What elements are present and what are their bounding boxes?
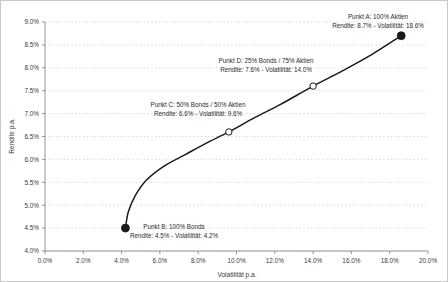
- x-tick-label: 8.0%: [191, 257, 206, 264]
- y-tick-label: 5.5%: [24, 179, 39, 186]
- annotation-label-b-line2: Rendite: 4.5% - Volatilität: 4.2%: [130, 232, 219, 239]
- y-tick-label: 6.5%: [24, 133, 39, 140]
- y-tick-label: 7.5%: [24, 87, 39, 94]
- y-tick-label: 9.0%: [24, 18, 39, 25]
- x-tick-label: 12.0%: [266, 257, 284, 264]
- efficient-frontier-chart: 0.0%2.0%4.0%6.0%8.0%10.0%12.0%14.0%16.0%…: [0, 0, 448, 282]
- x-tick-label: 0.0%: [38, 257, 53, 264]
- y-tick-label: 6.0%: [24, 156, 39, 163]
- x-tick-label: 4.0%: [114, 257, 129, 264]
- annotation-label-d-line2: Rendite: 7.6% - Volatilität: 14.0%: [220, 66, 312, 73]
- x-tick-label: 16.0%: [342, 257, 360, 264]
- annotation-label-a-line1: Punkt A: 100% Aktien: [348, 13, 409, 20]
- annotation-label-a-line2: Rendite: 8.7% - Volatilität: 18.6%: [332, 22, 424, 29]
- x-tick-label: 18.0%: [381, 257, 399, 264]
- x-axis-title: Volatilität p.a.: [217, 271, 256, 279]
- y-tick-label: 5.0%: [24, 202, 39, 209]
- data-point-d: [310, 83, 316, 89]
- annotation-label-c-line1: Punkt C: 50% Bonds / 50% Aktien: [151, 101, 246, 108]
- x-tick-label: 6.0%: [153, 257, 168, 264]
- y-axis-tick-labels: 4.0%4.5%5.0%5.5%6.0%6.5%7.0%7.5%8.0%8.5%…: [24, 18, 39, 254]
- annotation-label-c-line2: Rendite: 6.6% - Volatilität: 9.6%: [154, 110, 243, 117]
- x-tick-label: 20.0%: [419, 257, 437, 264]
- y-axis-title: Rendite p.a.: [8, 118, 16, 154]
- x-tick-label: 14.0%: [304, 257, 322, 264]
- annotation-label-d-line1: Punkt D: 25% Bonds / 75% Aktien: [219, 57, 314, 64]
- y-tick-label: 7.0%: [24, 110, 39, 117]
- data-point-b: [121, 224, 129, 232]
- point-annotations: Punkt A: 100% AktienRendite: 8.7% - Vola…: [130, 13, 424, 239]
- y-tick-label: 8.0%: [24, 64, 39, 71]
- y-tick-label: 8.5%: [24, 41, 39, 48]
- data-point-c: [226, 129, 232, 135]
- annotation-label-b-line1: Punkt B: 100% Bonds: [143, 223, 204, 230]
- data-point-a: [397, 32, 405, 40]
- x-axis-tick-labels: 0.0%2.0%4.0%6.0%8.0%10.0%12.0%14.0%16.0%…: [38, 257, 438, 264]
- x-tick-label: 10.0%: [227, 257, 245, 264]
- chart-canvas: 0.0%2.0%4.0%6.0%8.0%10.0%12.0%14.0%16.0%…: [1, 1, 448, 282]
- y-tick-label: 4.5%: [24, 224, 39, 231]
- y-tick-label: 4.0%: [24, 247, 39, 254]
- x-tick-label: 2.0%: [76, 257, 91, 264]
